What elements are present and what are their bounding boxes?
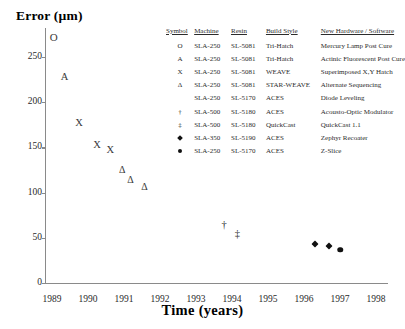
- legend-symbol-cell: X: [166, 65, 194, 78]
- legend-build-style-cell: WEAVE: [266, 65, 321, 78]
- legend-machine-cell: SLA-250: [194, 79, 231, 92]
- y-axis-tick: 200: [14, 96, 42, 108]
- legend-row: SLA-250SL-5170ACESDiode Leveling: [166, 92, 405, 105]
- legend-row: SLA-350SL-5190ACESZephyr Recoater: [166, 131, 405, 144]
- data-point-marker: X: [107, 145, 115, 156]
- filled-diamond-icon: [177, 135, 183, 141]
- legend-symbol-cell: †: [166, 105, 194, 118]
- legend-resin-cell: SL-5170: [231, 92, 266, 105]
- legend-hardware-cell: Z-Slice: [321, 145, 405, 158]
- legend-symbol-cell: O: [166, 39, 194, 52]
- y-axis-tick-label: 0: [14, 277, 42, 287]
- legend-symbol-cell: Δ: [166, 79, 194, 92]
- legend-symbol-glyph: O: [166, 42, 194, 50]
- legend-symbol-glyph: ‡: [166, 121, 194, 129]
- y-axis-line: [45, 28, 46, 284]
- legend-row: SLA-250SL-5170ACESZ-Slice: [166, 145, 405, 158]
- x-axis-title: Time (years): [0, 302, 405, 319]
- data-point-marker: Δ: [127, 175, 133, 185]
- legend-symbol-cell: A: [166, 52, 194, 65]
- y-axis-tick-label: 150: [14, 141, 42, 151]
- legend-build-style-cell: STAR-WEAVE: [266, 79, 321, 92]
- legend-machine-cell: SLA-250: [194, 52, 231, 65]
- y-axis-tick-mark: [42, 283, 46, 284]
- legend-symbol-cell: ‡: [166, 118, 194, 131]
- legend-row: XSLA-250SL-5081WEAVESuperimposed X,Y Hat…: [166, 65, 405, 78]
- y-axis-tick-mark: [42, 147, 46, 148]
- legend-machine-cell: SLA-250: [194, 92, 231, 105]
- data-point-marker: [326, 242, 333, 249]
- y-axis-tick-label: 200: [14, 96, 42, 106]
- legend-header-row: Symbol Machine Resin Build Style New Har…: [166, 27, 405, 39]
- legend-machine-cell: SLA-250: [194, 39, 231, 52]
- legend-resin-cell: SL-5180: [231, 105, 266, 118]
- legend-row: ΔSLA-250SL-5081STAR-WEAVEAlternate Seque…: [166, 79, 405, 92]
- filled-circle-icon: [178, 149, 183, 154]
- y-axis-tick-mark: [42, 102, 46, 103]
- legend-hardware-cell: Actinic Fluorescent Post Cure: [321, 52, 405, 65]
- y-axis-tick: 150: [14, 141, 42, 153]
- legend-row: †SLA-500SL-5180ACESAcousto-Optic Modulat…: [166, 105, 405, 118]
- y-axis-tick: 100: [14, 187, 42, 199]
- legend-table: Symbol Machine Resin Build Style New Har…: [166, 27, 405, 158]
- legend-build-style-cell: Tri-Hatch: [266, 52, 321, 65]
- legend-symbol-glyph: †: [166, 108, 194, 116]
- legend-header-machine: Machine: [194, 27, 231, 39]
- legend-symbol-cell: [166, 92, 194, 105]
- legend-build-style-cell: ACES: [266, 145, 321, 158]
- y-axis-tick-mark: [42, 57, 46, 58]
- legend-hardware-cell: Mercury Lamp Post Cure: [321, 39, 405, 52]
- data-point-marker: Δ: [119, 165, 125, 175]
- legend-row: OSLA-250SL-5081Tri-HatchMercury Lamp Pos…: [166, 39, 405, 52]
- legend-build-style-cell: ACES: [266, 92, 321, 105]
- legend-resin-cell: SL-5081: [231, 79, 266, 92]
- legend-row: ASLA-250SL-5081Tri-HatchActinic Fluoresc…: [166, 52, 405, 65]
- legend-hardware-cell: Alternate Sequencing: [321, 79, 405, 92]
- legend-symbol-glyph: X: [166, 68, 194, 76]
- y-axis-tick-mark: [42, 238, 46, 239]
- data-point-marker: [337, 247, 343, 253]
- data-point-marker: O: [50, 32, 58, 43]
- legend-resin-cell: SL-5190: [231, 131, 266, 144]
- legend-header-hardware: New Hardware / Software: [321, 27, 405, 39]
- x-axis-line: [45, 283, 388, 284]
- y-axis-tick-label: 50: [14, 232, 42, 242]
- legend-header-resin: Resin: [231, 27, 266, 39]
- y-axis-tick-mark: [42, 193, 46, 194]
- data-point-marker: X: [75, 118, 83, 129]
- legend-machine-cell: SLA-250: [194, 145, 231, 158]
- legend-build-style-cell: ACES: [266, 131, 321, 144]
- y-axis-tick-label: 100: [14, 187, 42, 197]
- data-point-marker: Δ: [141, 182, 147, 192]
- data-point-marker: †: [221, 220, 226, 231]
- legend-header-symbol: Symbol: [166, 27, 194, 39]
- legend-symbol-cell: [166, 131, 194, 144]
- legend-machine-cell: SLA-500: [194, 105, 231, 118]
- legend-hardware-cell: Superimposed X,Y Hatch: [321, 65, 405, 78]
- y-axis-tick: 50: [14, 232, 42, 244]
- legend-resin-cell: SL-5170: [231, 145, 266, 158]
- y-axis-title: Error (µm): [16, 8, 83, 24]
- legend-machine-cell: SLA-500: [194, 118, 231, 131]
- y-axis-tick: 250: [14, 51, 42, 63]
- legend-machine-cell: SLA-250: [194, 65, 231, 78]
- legend-build-style-cell: QuickCast: [266, 118, 321, 131]
- legend-machine-cell: SLA-350: [194, 131, 231, 144]
- legend-build-style-cell: ACES: [266, 105, 321, 118]
- legend-resin-cell: SL-5081: [231, 65, 266, 78]
- legend-resin-cell: SL-5180: [231, 118, 266, 131]
- legend-build-style-cell: Tri-Hatch: [266, 39, 321, 52]
- data-point-marker: ‡: [235, 229, 240, 240]
- legend-hardware-cell: QuickCast 1.1: [321, 118, 405, 131]
- legend-hardware-cell: Acousto-Optic Modulator: [321, 105, 405, 118]
- legend: Symbol Machine Resin Build Style New Har…: [166, 27, 405, 158]
- chart-figure: Error (µm) 050100150200250 1989199019911…: [0, 0, 405, 329]
- y-axis-tick-label: 250: [14, 51, 42, 61]
- data-point-marker: [311, 241, 318, 248]
- data-point-marker: A: [61, 72, 69, 83]
- data-point-marker: X: [93, 139, 101, 150]
- legend-symbol-glyph: Δ: [166, 81, 194, 89]
- legend-body: OSLA-250SL-5081Tri-HatchMercury Lamp Pos…: [166, 39, 405, 158]
- legend-symbol-glyph: A: [166, 55, 194, 63]
- legend-header-build-style: Build Style: [266, 27, 321, 39]
